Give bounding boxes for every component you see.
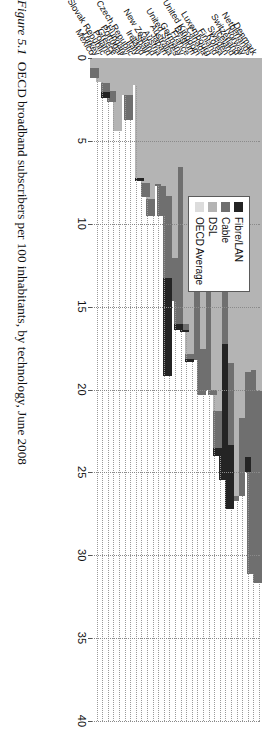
legend-item: OECD Average <box>193 202 206 285</box>
legend-item-label: Cable <box>221 217 231 243</box>
legend-item: Fibre/LAN <box>232 202 245 285</box>
x-axis-tick-label: 40 <box>76 715 88 728</box>
legend-swatch-icon <box>221 202 230 212</box>
legend-swatch-icon <box>195 202 204 212</box>
caption-spacer <box>15 55 30 62</box>
legend-swatch-icon <box>208 202 217 212</box>
x-axis-tick-label: 35 <box>76 632 88 645</box>
x-axis-tick-label: 0 <box>76 55 88 61</box>
x-axis-tick-label: 10 <box>76 217 88 230</box>
legend-item: Cable <box>219 202 232 285</box>
legend-item: DSL <box>206 202 219 285</box>
caption-text: OECD broadband subscribers per 100 inhab… <box>15 62 30 465</box>
rotated-figure-container: 0510152025303540 DenmarkNetherlandsNorwa… <box>0 0 270 735</box>
category-labels-group: DenmarkNetherlandsNorwaySwitzerlandIcela… <box>92 58 260 721</box>
figure-page: 0510152025303540 DenmarkNetherlandsNorwa… <box>0 0 270 735</box>
legend-item-label: OECD Average <box>195 217 205 285</box>
x-axis-tick-label: 5 <box>76 138 88 144</box>
legend-item-label: Fibre/LAN <box>234 217 244 262</box>
chart-area: 0510152025303540 DenmarkNetherlandsNorwa… <box>46 0 264 735</box>
x-axis-tick-label: 20 <box>76 383 88 396</box>
gridline <box>92 721 260 722</box>
x-axis-tick-label: 30 <box>76 549 88 562</box>
x-axis-tick-label: 15 <box>76 300 88 313</box>
legend: Fibre/LANCableDSLOECD Average <box>188 196 250 292</box>
figure-caption: Figure 5.1 OECD broadband subscribers pe… <box>14 0 30 720</box>
x-axis-tick <box>88 721 92 722</box>
legend-swatch-icon <box>234 202 243 212</box>
x-axis: 0510152025303540 <box>76 58 92 721</box>
x-axis-tick-label: 25 <box>76 466 88 479</box>
legend-item-label: DSL <box>208 217 218 236</box>
figure-number: Figure 5.1 <box>15 0 30 55</box>
